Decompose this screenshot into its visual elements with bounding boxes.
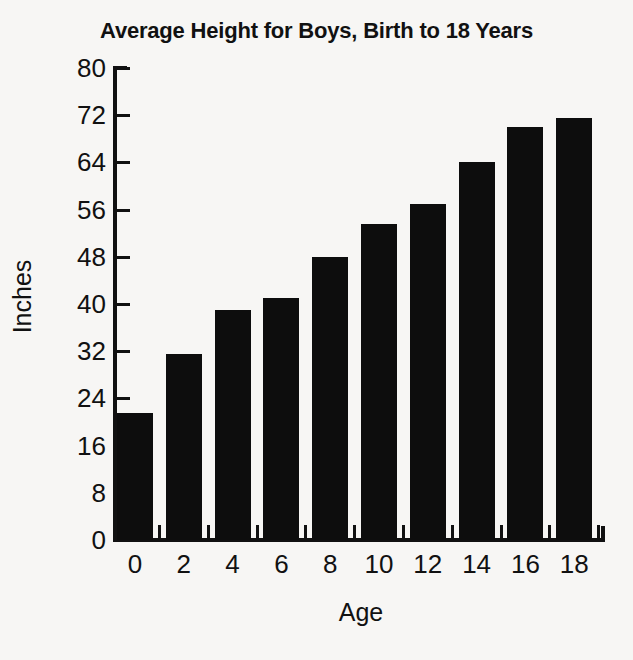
y-axis-tick	[117, 209, 130, 212]
x-axis-tick	[256, 525, 259, 538]
bar	[117, 413, 153, 540]
y-axis-title: Inches	[8, 237, 37, 357]
y-axis-tick	[117, 350, 130, 353]
bar	[459, 162, 495, 540]
y-axis-tick-label: 8	[50, 480, 106, 506]
y-axis-tick	[117, 67, 130, 70]
bar	[166, 354, 202, 540]
x-axis-tick	[207, 525, 210, 538]
bar	[263, 298, 299, 540]
x-axis-tick	[304, 525, 307, 538]
x-axis-tick	[597, 525, 600, 538]
bar	[361, 224, 397, 540]
bar	[556, 118, 592, 540]
y-axis-tick-label: 80	[50, 55, 106, 81]
y-axis-tick-label: 32	[50, 338, 106, 364]
x-axis-tick	[548, 525, 551, 538]
y-axis-tick-label: 48	[50, 244, 106, 270]
y-axis-tick-label: 16	[50, 433, 106, 459]
x-axis-tick	[353, 525, 356, 538]
y-axis-tick-label: 40	[50, 291, 106, 317]
bar	[410, 204, 446, 540]
y-axis-tick-label: 24	[50, 385, 106, 411]
chart-figure: Average Height for Boys, Birth to 18 Yea…	[0, 0, 633, 660]
bar	[312, 257, 348, 540]
x-axis-tick	[451, 525, 454, 538]
y-axis-tick-label: 56	[50, 197, 106, 223]
y-axis-tick	[117, 256, 130, 259]
y-axis-tick	[117, 397, 130, 400]
x-axis-tick	[158, 525, 161, 538]
y-axis-tick	[117, 303, 130, 306]
x-axis-tick	[402, 525, 405, 538]
x-axis-tick	[500, 525, 503, 538]
y-axis-tick-labels: 08162432404856647280	[34, 0, 106, 660]
y-axis-tick	[117, 161, 130, 164]
y-axis-tick-label: 64	[50, 149, 106, 175]
y-axis-tick-label: 0	[50, 527, 106, 553]
bar	[507, 127, 543, 540]
x-axis-title: Age	[117, 598, 605, 627]
x-axis-end-cap	[601, 526, 605, 542]
y-axis-tick-label: 72	[50, 102, 106, 128]
x-axis-tick-label: 18	[544, 551, 604, 577]
y-axis-tick	[117, 114, 130, 117]
bar	[215, 310, 251, 540]
